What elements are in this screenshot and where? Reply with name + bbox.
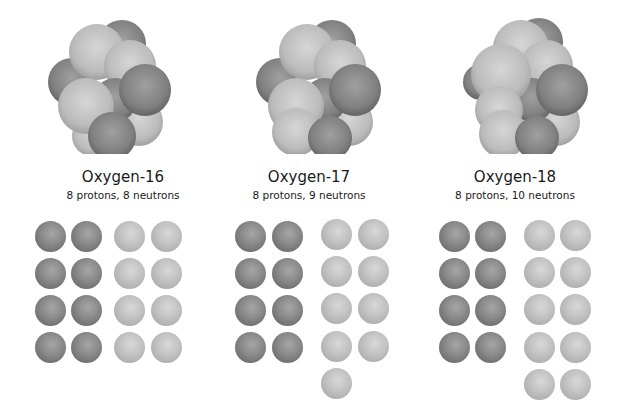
neutron-sphere (321, 256, 352, 287)
neutron-sphere (524, 332, 555, 363)
isotope-name: Oxygen-16 (20, 168, 226, 186)
proton-sphere (475, 295, 506, 326)
neutron-sphere (358, 331, 389, 362)
neutron-sphere (524, 220, 555, 251)
neutron-sphere (560, 369, 591, 400)
isotope-panel-oxygen-18: Oxygen-18 8 protons, 10 neutrons (412, 0, 618, 399)
nucleus-oxygen-18 (459, 14, 589, 154)
proton-sphere (235, 295, 266, 326)
neutron-sphere (151, 258, 182, 289)
isotope-description: 8 protons, 10 neutrons (412, 189, 618, 201)
neutron-sphere (114, 221, 145, 252)
proton-sphere (475, 258, 506, 289)
isotope-description: 8 protons, 8 neutrons (20, 189, 226, 201)
proton-sphere (272, 332, 303, 363)
neutron-sphere (358, 219, 389, 250)
proton-sphere (235, 332, 266, 363)
neutron-sphere (524, 257, 555, 288)
proton-sphere (272, 258, 303, 289)
neutron-sphere (524, 294, 555, 325)
isotope-panel-oxygen-17: Oxygen-17 8 protons, 9 neutrons (206, 0, 412, 399)
proton-sphere (35, 332, 66, 363)
neutron-sphere (151, 221, 182, 252)
neutron-sphere (114, 258, 145, 289)
proton-sphere (71, 332, 102, 363)
neutron-sphere (321, 293, 352, 324)
neutron-sphere (560, 257, 591, 288)
proton-sphere (235, 258, 266, 289)
proton-sphere (35, 221, 66, 252)
proton-sphere (272, 295, 303, 326)
isotope-description: 8 protons, 9 neutrons (206, 189, 412, 201)
proton-sphere (272, 221, 303, 252)
proton-sphere (439, 295, 470, 326)
proton-sphere (475, 221, 506, 252)
proton-sphere (235, 221, 266, 252)
neutron-sphere (560, 332, 591, 363)
neutron-sphere (114, 295, 145, 326)
proton-sphere (71, 258, 102, 289)
isotope-name: Oxygen-17 (206, 168, 412, 186)
neutron-sphere (151, 295, 182, 326)
neutron-sphere (358, 256, 389, 287)
neutron-sphere (114, 332, 145, 363)
isotope-panel-oxygen-16: Oxygen-16 8 protons, 8 neutrons (0, 0, 206, 399)
isotope-name: Oxygen-18 (412, 168, 618, 186)
proton-sphere (439, 332, 470, 363)
neutron-sphere (151, 332, 182, 363)
proton-sphere (35, 258, 66, 289)
neutron-sphere (321, 368, 352, 399)
nucleus-oxygen-16 (42, 14, 172, 154)
proton-sphere (475, 332, 506, 363)
proton-sphere (71, 221, 102, 252)
proton-sphere (439, 221, 470, 252)
neutron-sphere (358, 293, 389, 324)
neutron-sphere (524, 369, 555, 400)
proton-sphere (439, 258, 470, 289)
proton-sphere (71, 295, 102, 326)
neutron-sphere (560, 220, 591, 251)
neutron-sphere (321, 219, 352, 250)
nucleus-oxygen-17 (252, 14, 382, 154)
neutron-sphere (321, 331, 352, 362)
proton-sphere (35, 295, 66, 326)
neutron-sphere (560, 294, 591, 325)
